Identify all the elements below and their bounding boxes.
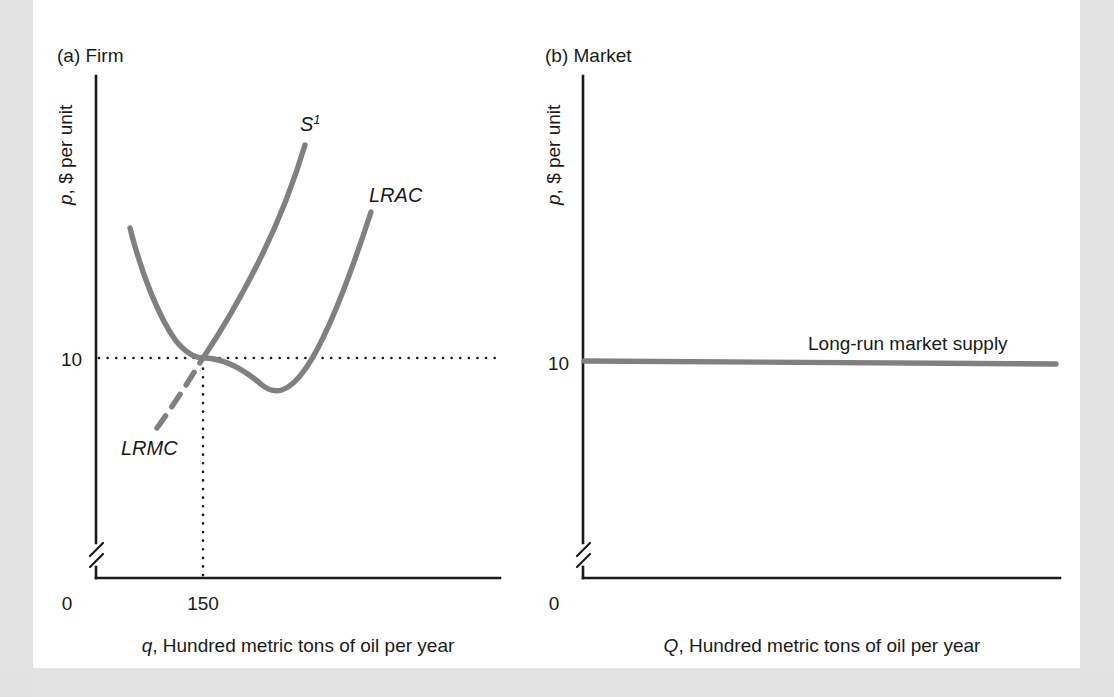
figure-root: (a) Firm p, $ per unit	[0, 0, 1114, 697]
panel-market-y-axis-break-bottom	[577, 554, 590, 567]
panel-market-origin-label: 0	[549, 593, 560, 614]
panel-firm-x-axis-var: q	[142, 635, 153, 656]
panel-firm-y-axis-var: p	[55, 194, 76, 206]
panel-market-x-axis-var: Q	[664, 635, 679, 656]
panel-firm-x-tick-150: 150	[187, 593, 219, 614]
panel-firm-lrac-curve-label: LRAC	[369, 184, 423, 206]
panel-firm-supply-curve-label: S1	[300, 112, 321, 136]
panel-firm-y-axis-break-top	[90, 543, 103, 556]
panel-market-x-axis-label: Q, Hundred metric tons of oil per year	[664, 635, 981, 656]
panel-market-long-run-supply-line	[584, 361, 1056, 364]
panel-market-y-axis-label: p, $ per unit	[543, 104, 564, 206]
supply-label-base: S	[300, 113, 314, 135]
panel-firm-lrac-curve	[130, 212, 371, 391]
panel-firm-x-axis-label: q, Hundred metric tons of oil per year	[142, 635, 455, 656]
panel-firm-lrmc-curve	[157, 361, 201, 428]
panel-market-y-axis-var: p	[543, 194, 564, 206]
panel-market: (b) Market p, $ per unit Long-run market…	[543, 45, 1060, 656]
panel-market-y-axis-rest: , $ per unit	[543, 104, 564, 194]
panel-firm-origin-label: 0	[62, 593, 73, 614]
panel-firm-title: (a) Firm	[57, 45, 123, 66]
panel-market-title: (b) Market	[545, 45, 632, 66]
panel-market-long-run-supply-label: Long-run market supply	[808, 333, 1008, 354]
panel-market-y-axis-break-top	[577, 543, 590, 556]
supply-label-superscript: 1	[313, 112, 320, 127]
panel-firm-y-tick-10: 10	[61, 349, 82, 370]
panel-firm-x-axis-rest: , Hundred metric tons of oil per year	[152, 635, 455, 656]
figure-svg: (a) Firm p, $ per unit	[0, 0, 1114, 697]
panel-firm-supply-curve	[203, 145, 305, 358]
panel-market-x-axis-rest: , Hundred metric tons of oil per year	[678, 635, 981, 656]
panel-firm-lrmc-curve-label: LRMC	[121, 437, 178, 459]
panel-firm: (a) Firm p, $ per unit	[55, 45, 500, 656]
panel-market-y-tick-10: 10	[548, 353, 569, 374]
panel-firm-y-axis-rest: , $ per unit	[55, 104, 76, 194]
panel-firm-y-axis-label: p, $ per unit	[55, 104, 76, 206]
panel-firm-y-axis-break-bottom	[90, 554, 103, 567]
